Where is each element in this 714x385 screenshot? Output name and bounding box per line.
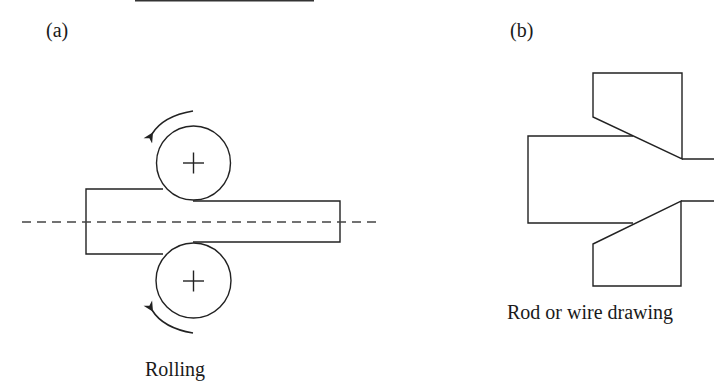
drawing-diagram [528, 73, 714, 286]
rolling-diagram [86, 111, 340, 333]
upper-die [593, 73, 682, 159]
top-roll-rotation-arrow-icon [152, 111, 193, 134]
drawing-caption: Rod or wire drawing [507, 301, 673, 324]
workpiece [86, 189, 340, 254]
diagram-canvas [0, 0, 714, 385]
bottom-roll-rotation-arrow-icon [152, 310, 193, 333]
rod-wire [528, 136, 714, 223]
bottom-roll-center-cross-icon [183, 271, 204, 292]
lower-die [593, 201, 681, 286]
panel-b-label: (b) [510, 19, 533, 42]
top-roll-center-cross-icon [183, 153, 204, 174]
rolling-caption: Rolling [145, 358, 205, 381]
panel-a-label: (a) [46, 19, 68, 42]
